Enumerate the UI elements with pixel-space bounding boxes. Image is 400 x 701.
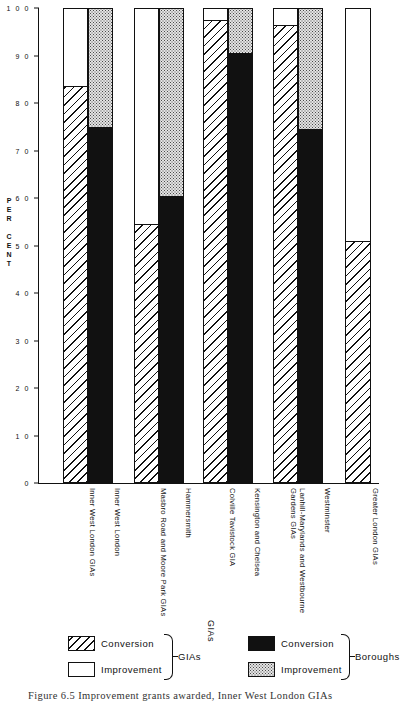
y-tick-label: 6 0: [0, 195, 30, 202]
x-axis-label: Inner West London: [91, 488, 122, 633]
y-axis-title-char: T: [3, 259, 15, 268]
bar-borough[interactable]: [228, 8, 253, 483]
bar-borough[interactable]: [298, 8, 323, 483]
y-tick-label: 0: [0, 480, 30, 487]
y-tick-label: 5 0: [0, 242, 30, 249]
bar-segment-improvement: [64, 9, 87, 87]
bar-segment-improvement: [346, 9, 370, 242]
legend-swatch-hatch-icon: [68, 636, 95, 651]
bar-segment-improvement: [274, 9, 297, 26]
x-axis-line: [38, 483, 379, 484]
y-tick-label: 8 0: [0, 100, 30, 107]
bar-gia[interactable]: [273, 8, 298, 483]
bar-segment-conversion: [64, 87, 87, 482]
x-axis-label: Westminster: [301, 488, 332, 633]
y-axis-title-char: E: [3, 205, 15, 214]
y-tick-label: 2 0: [0, 385, 30, 392]
legend-brace-gias-icon: [164, 634, 173, 680]
chart-plot-area: PER CENT 1 0 09 08 07 06 05 04 03 02 01 …: [0, 0, 383, 492]
figure-caption: Figure 6.5 Improvement grants awarded, I…: [28, 690, 378, 701]
y-tick-label: 3 0: [0, 337, 30, 344]
legend-brace-boroughs-icon: [341, 634, 350, 680]
y-axis-line: [38, 8, 39, 484]
bar-segment-conversion: [346, 242, 370, 482]
y-axis-title: PER CENT: [3, 196, 15, 268]
y-axis-title-char: [3, 223, 15, 232]
legend-group-label-boroughs: Boroughs: [355, 651, 400, 662]
bar-segment-improvement: [135, 9, 158, 225]
legend-item-boroughs-conversion: Conversion: [248, 636, 334, 651]
bar-segment-conversion: [274, 26, 297, 482]
bar-gia[interactable]: [63, 8, 88, 483]
truncated-axis-label-gias: GIAs: [206, 620, 216, 642]
bar-segment-improvement: [299, 9, 322, 130]
y-tick-label: 1 0 0: [0, 5, 30, 12]
bar-gia[interactable]: [134, 8, 159, 483]
y-tick-label: 4 0: [0, 290, 30, 297]
chart-legend: Conversion Improvement GIAs Conversion I…: [0, 628, 383, 688]
legend-swatch-white-icon: [68, 662, 95, 677]
bar-segment-conversion: [204, 21, 227, 482]
legend-label-boroughs-improvement: Improvement: [281, 664, 342, 675]
x-axis-label: Kensington and Chelsea: [231, 488, 262, 633]
x-axis-label: Greater London GIAs: [348, 488, 380, 633]
bar-segment-conversion: [299, 130, 322, 482]
bar-segment-conversion: [135, 225, 158, 482]
bar-segment-improvement: [229, 9, 252, 54]
bar-segment-improvement: [204, 9, 227, 21]
x-axis-label: Hammersmith: [162, 488, 193, 633]
bar-borough[interactable]: [159, 8, 184, 483]
legend-item-boroughs-improvement: Improvement: [248, 662, 342, 677]
bar-segment-conversion: [89, 128, 112, 482]
bar-segment-improvement: [160, 9, 183, 197]
legend-label-gias-improvement: Improvement: [101, 664, 162, 675]
bar-borough[interactable]: [88, 8, 113, 483]
y-tick-label: 7 0: [0, 147, 30, 154]
legend-item-gias-conversion: Conversion: [68, 636, 154, 651]
y-axis-title-char: R: [3, 214, 15, 223]
y-tick-label: 1 0: [0, 432, 30, 439]
legend-label-gias-conversion: Conversion: [101, 638, 154, 649]
bar-segment-conversion: [160, 197, 183, 482]
y-axis-title-char: N: [3, 250, 15, 259]
legend-swatch-black-icon: [248, 636, 275, 651]
bar-gia[interactable]: [203, 8, 228, 483]
y-axis-title-char: C: [3, 232, 15, 241]
legend-label-boroughs-conversion: Conversion: [281, 638, 334, 649]
legend-swatch-dots-icon: [248, 662, 275, 677]
y-tick-label: 9 0: [0, 52, 30, 59]
bar-segment-improvement: [89, 9, 112, 128]
legend-group-label-gias: GIAs: [178, 651, 201, 662]
legend-item-gias-improvement: Improvement: [68, 662, 162, 677]
bar-gia[interactable]: [345, 8, 371, 483]
bar-segment-conversion: [229, 54, 252, 482]
